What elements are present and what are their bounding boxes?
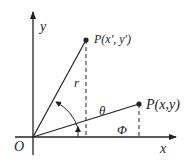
phi-label: Φ [117,123,127,136]
x-axis-label: x [160,142,166,156]
point-rotated-label: P(x', y') [94,33,131,45]
point-original [136,101,141,106]
radius-label: r [74,76,79,89]
point-original-label: P(x,y) [146,98,180,112]
y-axis-label: y [40,20,46,34]
point-rotated [83,37,88,42]
origin-label: O [14,140,24,154]
theta-label: θ [99,104,105,117]
rotation-diagram: y x O P(x', y') P(x,y) r θ Φ [0,0,192,166]
